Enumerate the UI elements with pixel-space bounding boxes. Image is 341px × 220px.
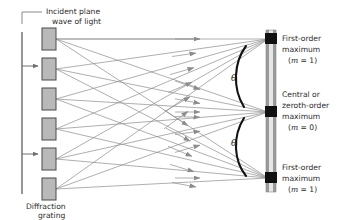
first-order-top-line2: maximum (282, 45, 320, 54)
theta-arc-upper (236, 46, 246, 107)
grating-slit (42, 178, 56, 200)
theta-label-lower: θ (231, 138, 237, 148)
maximum-spot-first-order-bottom (265, 172, 277, 183)
ray-bundle (56, 39, 268, 189)
incident-label-line2: wave of light (52, 17, 101, 26)
diagram-canvas: Incident plane wave of light Diffraction… (0, 0, 341, 220)
first-order-top-m: m (291, 56, 298, 65)
central-value: = 0) (298, 123, 317, 132)
diffraction-grating-slits (42, 28, 56, 200)
first-order-bottom-m: m (291, 185, 298, 194)
central-label-line1: Central or (282, 90, 321, 99)
maximum-spot-first-order-top (265, 33, 277, 44)
maximum-spot-central (265, 106, 277, 117)
first-order-top-line1: First-order (282, 34, 322, 43)
theta-label-upper: θ (231, 73, 237, 83)
theta-arc-lower (236, 118, 246, 176)
grating-label-line1: Diffraction (26, 202, 66, 211)
central-m: m (291, 123, 298, 132)
first-order-bottom-value: = 1) (298, 185, 317, 194)
first-order-top-order: (m = 1) (288, 56, 317, 65)
central-order: (m = 0) (288, 123, 317, 132)
label-diffraction-grating: Diffraction grating (26, 202, 66, 220)
label-incident-plane-wave: Incident plane wave of light (46, 7, 101, 26)
first-order-bottom-order: (m = 1) (288, 185, 317, 194)
incident-label-leader (22, 12, 42, 24)
grating-slit (42, 58, 56, 80)
label-central-maximum: Central or zeroth-order maximum (m = 0) (282, 90, 330, 132)
label-first-order-bottom: First-order maximum (m = 1) (282, 163, 322, 194)
incident-wave-arrows (22, 66, 38, 154)
grating-slit (42, 148, 56, 170)
central-label-line3: maximum (282, 112, 320, 121)
first-order-top-value: = 1) (298, 56, 317, 65)
angle-arcs (236, 46, 246, 176)
grating-label-line2: grating (38, 211, 65, 220)
incident-label-line1: Incident plane (46, 7, 100, 16)
diffraction-grating-figure: Incident plane wave of light Diffraction… (0, 0, 341, 220)
label-first-order-top: First-order maximum (m = 1) (282, 34, 322, 65)
grating-slit (42, 88, 56, 110)
grating-slit (42, 28, 56, 50)
central-label-line2: zeroth-order (282, 101, 330, 110)
grating-slit (42, 118, 56, 140)
first-order-bottom-line1: First-order (282, 163, 322, 172)
first-order-bottom-line2: maximum (282, 174, 320, 183)
